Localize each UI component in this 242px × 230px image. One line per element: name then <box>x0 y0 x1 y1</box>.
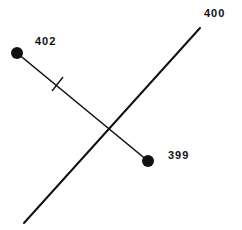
diagram-canvas: 402 399 400 <box>0 0 242 230</box>
label-402: 402 <box>35 35 56 47</box>
point-402 <box>11 47 23 59</box>
label-400: 400 <box>204 7 225 19</box>
point-399 <box>142 155 154 167</box>
line-400 <box>24 28 200 223</box>
label-399: 399 <box>168 149 189 161</box>
